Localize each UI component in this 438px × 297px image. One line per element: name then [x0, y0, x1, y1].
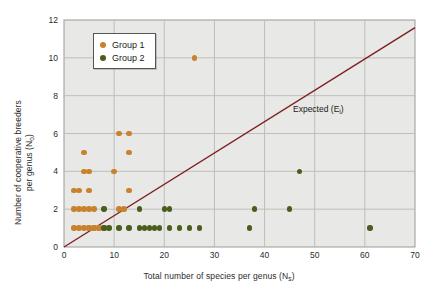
x-tick-label: 30	[202, 250, 226, 260]
data-point	[126, 188, 131, 193]
x-axis-label-tail: )	[292, 271, 295, 281]
x-axis-label: Total number of species per genus (Ns)	[0, 271, 438, 281]
data-point	[126, 150, 131, 155]
legend-marker-group-2	[100, 55, 106, 61]
data-point	[157, 225, 162, 230]
data-point	[91, 206, 96, 211]
y-tick-label: 12	[38, 15, 58, 25]
x-tick-label: 40	[253, 250, 277, 260]
expected-label-tail: )	[341, 104, 344, 114]
data-point	[116, 131, 121, 136]
data-point	[101, 206, 106, 211]
y-tick-label: 8	[38, 91, 58, 101]
data-point	[197, 225, 202, 230]
data-point	[116, 225, 121, 230]
y-tick-label: 6	[38, 129, 58, 139]
y-tick-label: 10	[38, 53, 58, 63]
data-point	[247, 225, 252, 230]
data-point	[252, 206, 257, 211]
data-point	[126, 131, 131, 136]
data-point	[192, 55, 197, 60]
y-axis-label-line2: per genus (No)	[24, 100, 35, 225]
y-axis-label-subscript: o	[28, 137, 35, 141]
data-point	[187, 225, 192, 230]
x-axis-label-subscript: s	[288, 275, 291, 282]
legend-item-group-1[interactable]: Group 1	[100, 38, 145, 51]
y-axis-label: Number of cooperative breeders per genus…	[13, 100, 35, 225]
x-tick-label: 60	[353, 250, 377, 260]
legend-label-group-2: Group 2	[112, 53, 145, 63]
data-point	[287, 206, 292, 211]
data-point	[167, 225, 172, 230]
data-point	[106, 225, 111, 230]
x-axis-label-main: Total number of species per genus (N	[143, 271, 288, 281]
x-tick-label: 20	[152, 250, 176, 260]
chart-legend[interactable]: Group 1 Group 2	[93, 33, 156, 69]
y-axis-label-main: per genus (N	[24, 141, 34, 191]
data-point	[297, 169, 302, 174]
data-point	[86, 188, 91, 193]
x-tick-label: 70	[403, 250, 427, 260]
y-tick-label: 4	[38, 166, 58, 176]
data-point	[167, 206, 172, 211]
y-tick-label: 0	[38, 242, 58, 252]
x-tick-label: 50	[303, 250, 327, 260]
data-point	[367, 225, 372, 230]
scatter-chart-figure: 010203040506070 024681012 Total number o…	[0, 0, 438, 297]
data-point	[177, 225, 182, 230]
legend-item-group-2[interactable]: Group 2	[100, 51, 145, 64]
data-point	[86, 169, 91, 174]
data-point	[137, 206, 142, 211]
data-point	[121, 206, 126, 211]
data-point	[126, 225, 131, 230]
legend-marker-group-1	[100, 42, 106, 48]
data-point	[111, 169, 116, 174]
expected-line-annotation: Expected (Ei)	[293, 104, 344, 114]
legend-label-group-1: Group 1	[112, 40, 145, 50]
y-axis-label-line1: Number of cooperative breeders	[13, 100, 24, 225]
data-point	[76, 188, 81, 193]
data-point	[81, 150, 86, 155]
expected-label-main: Expected (E	[293, 104, 339, 114]
y-tick-label: 2	[38, 204, 58, 214]
x-tick-label: 10	[102, 250, 126, 260]
expected-label-subscript: i	[339, 108, 340, 115]
